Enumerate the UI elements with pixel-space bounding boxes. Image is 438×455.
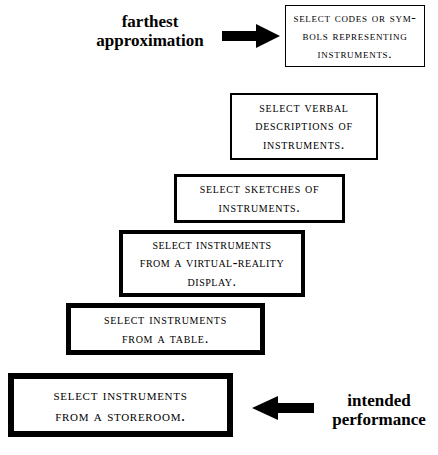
- step-box-3-text: Select sketches of instruments.: [195, 180, 325, 217]
- step-box-1-text: Select codes or sym- bols representing i…: [288, 9, 421, 62]
- step-box-5[interactable]: Select instruments from a table.: [66, 303, 265, 355]
- step-box-5-text: Select instruments from a table.: [99, 310, 232, 348]
- step-box-6[interactable]: Select instruments from a storeroom.: [8, 373, 233, 437]
- farthest-approximation-label: farthest approximation: [80, 12, 220, 50]
- arrow-left-icon: [252, 395, 314, 421]
- intended-performance-label: intended performance: [320, 391, 438, 429]
- arrow-right-icon: [222, 23, 280, 49]
- step-box-6-text: Select instruments from a storeroom.: [49, 384, 193, 426]
- diagram-canvas: farthest approximation Select codes or s…: [0, 0, 438, 455]
- step-box-2-text: Select verbal descriptions of instrument…: [250, 99, 357, 154]
- step-box-4[interactable]: Select instruments from a virtual-realit…: [119, 230, 305, 297]
- step-box-1[interactable]: Select codes or sym- bols representing i…: [285, 5, 425, 67]
- step-box-2[interactable]: Select verbal descriptions of instrument…: [230, 93, 378, 160]
- step-box-3[interactable]: Select sketches of instruments.: [174, 174, 345, 223]
- step-box-4-text: Select instruments from a virtual-realit…: [135, 236, 289, 291]
